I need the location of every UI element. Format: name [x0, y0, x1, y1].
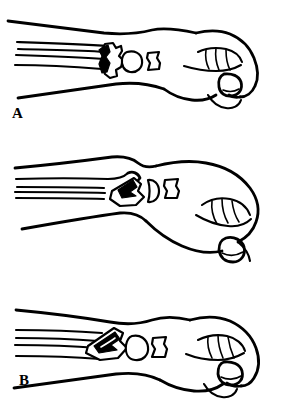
radius-upper-cortex — [16, 173, 128, 179]
panel-c-drawing — [0, 270, 281, 405]
finger-knuckle-row — [202, 198, 250, 215]
panel-b: B — [0, 135, 281, 270]
dorsal-forearm-contour — [16, 310, 190, 324]
finger-knuckle-row — [198, 48, 242, 62]
finger-crease-1 — [212, 201, 217, 224]
thumb-outline — [219, 237, 244, 262]
panel-a: A — [0, 0, 281, 135]
lunate-bone — [126, 336, 148, 361]
radius-lower-cortex — [16, 338, 98, 341]
capitate-bone — [147, 52, 160, 70]
finger-crease-3 — [232, 201, 239, 222]
thumb-crease — [222, 252, 243, 255]
ulna-upper-cortex — [16, 55, 104, 59]
volar-forearm-contour — [22, 213, 146, 229]
radius-upper-cortex — [16, 330, 102, 333]
ulna-upper-cortex — [15, 345, 98, 348]
volar-forearm-contour — [18, 83, 164, 98]
thumb-crease — [223, 89, 239, 91]
finger-tip-line — [184, 65, 241, 71]
panel-c: C — [0, 270, 281, 405]
ulna-lower-cortex — [15, 65, 102, 69]
dorsal-forearm-contour — [15, 157, 156, 168]
capitate-bone — [152, 337, 167, 357]
finger-crease-3 — [226, 50, 230, 70]
finger-tip-line — [186, 353, 244, 360]
radius-lower-cortex — [17, 187, 104, 188]
radius-upper-cortex — [17, 42, 110, 46]
finger-crease-3 — [228, 337, 234, 358]
panel-a-drawing — [0, 0, 281, 135]
thumb-outline — [219, 74, 242, 96]
ulna-lower-cortex — [16, 198, 104, 199]
lunate-bone — [148, 180, 159, 202]
dorsal-forearm-contour — [8, 21, 196, 34]
thumb-crease — [221, 376, 241, 379]
hand-dorsal-outline — [190, 317, 258, 386]
finger-crease-1 — [206, 50, 209, 69]
palm-volar-contour — [146, 221, 222, 252]
hand-dorsal-outline — [196, 31, 258, 97]
figure-sheet: A — [0, 0, 281, 405]
ulna-lower-cortex — [16, 356, 100, 359]
radius-lower-cortex — [18, 49, 105, 52]
finger-knuckle-row — [198, 335, 245, 351]
palm-volar-contour — [160, 380, 223, 391]
volar-forearm-contour — [14, 373, 160, 388]
panel-label-a: A — [12, 106, 23, 121]
finger-crease-2 — [222, 199, 228, 223]
thumb-outline — [218, 362, 242, 385]
lunate-bone — [122, 51, 142, 72]
finger-crease-2 — [218, 335, 223, 358]
finger-tip-line — [196, 215, 251, 226]
finger-crease-2 — [216, 48, 219, 70]
finger-crease-1 — [208, 337, 212, 358]
capitate-bone — [164, 179, 179, 198]
panel-b-drawing — [0, 135, 281, 270]
ulna-upper-cortex — [15, 192, 105, 193]
